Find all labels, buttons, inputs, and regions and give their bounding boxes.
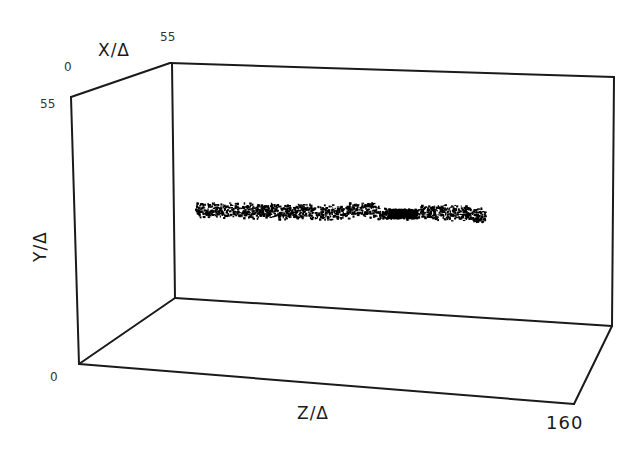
y-axis-min-label: 0 [50, 370, 58, 384]
plot-canvas [0, 0, 644, 458]
y-axis-title: Y/Δ [30, 231, 50, 262]
z-axis-title: Z/Δ [297, 403, 329, 423]
x-axis-title: X/Δ [98, 40, 130, 60]
x-axis-max-label: 55 [160, 30, 175, 44]
scatter-points [195, 202, 487, 223]
y-axis-max-label: 55 [40, 97, 55, 111]
z-axis-max-label: 160 [546, 412, 583, 433]
x-axis-min-label: 0 [64, 60, 72, 74]
box-frame [71, 63, 614, 404]
